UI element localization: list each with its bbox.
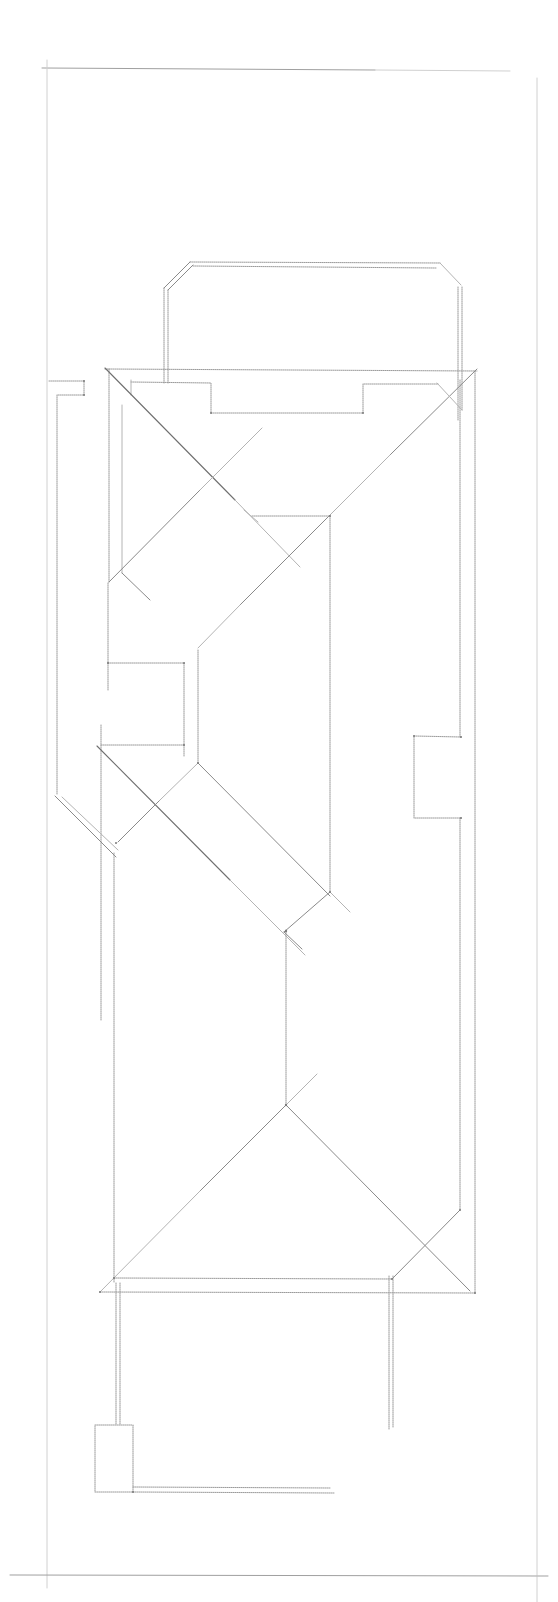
roof-plan-drawing (0, 0, 558, 1602)
bottom-eaves (100, 1278, 475, 1293)
bottom-box (95, 1425, 334, 1493)
lower-hips (55, 746, 350, 955)
upper-hips (105, 368, 477, 648)
lower-roof (100, 1074, 470, 1292)
right-bay (414, 736, 461, 818)
right-post (389, 1276, 393, 1430)
left-posts (114, 853, 120, 1425)
main-roof-outline (105, 369, 477, 1293)
left-stub (49, 381, 150, 795)
upper-bay-outline (164, 262, 462, 420)
top-recess (131, 380, 438, 413)
vertex-markers (83, 380, 476, 1493)
